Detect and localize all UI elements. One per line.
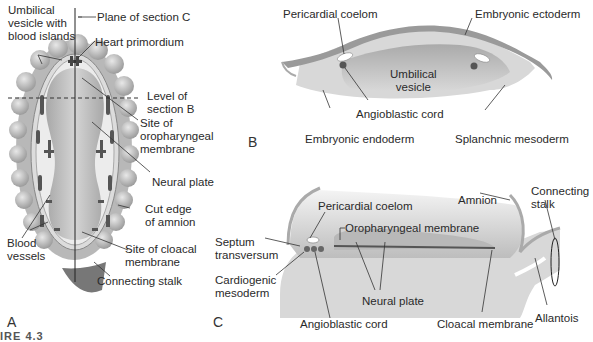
label-embryonic-endoderm: Embryonic endoderm bbox=[305, 133, 414, 146]
label-blood-vessels: Blood vessels bbox=[7, 237, 45, 263]
label-pericardial-coelom-b: Pericardial coelom bbox=[283, 8, 378, 21]
panel-letter-b: B bbox=[248, 134, 257, 150]
label-cut-edge-amnion: Cut edge of amnion bbox=[145, 203, 196, 229]
label-amnion: Amnion bbox=[458, 194, 497, 207]
label-embryonic-ectoderm: Embryonic ectoderm bbox=[475, 8, 580, 21]
label-neural-plate-a: Neural plate bbox=[152, 176, 214, 189]
label-umbilical-vesicle: Umbilical vesicle with blood islands bbox=[8, 4, 75, 43]
label-neural-plate-c: Neural plate bbox=[362, 295, 424, 308]
label-septum-transversum: Septum transversum bbox=[215, 236, 278, 262]
label-oropharyngeal-membrane: Oropharyngeal membrane bbox=[345, 222, 479, 235]
label-connecting-stalk-a: Connecting stalk bbox=[97, 275, 182, 288]
figure-caption-fragment: IRE 4.3 bbox=[0, 330, 44, 342]
panel-b-section bbox=[282, 18, 552, 110]
label-splanchnic-mesoderm: Splanchnic mesoderm bbox=[455, 133, 569, 146]
label-cloacal-site: Site of cloacal membrane bbox=[125, 243, 197, 269]
label-umbilical-vesicle-b: Umbilical vesicle bbox=[390, 68, 437, 94]
label-plane-of-section-c: Plane of section C bbox=[97, 11, 190, 24]
label-cardiogenic-mesoderm: Cardiogenic mesoderm bbox=[215, 274, 276, 300]
label-level-of-section-b: Level of section B bbox=[147, 90, 194, 116]
label-cloacal-membrane: Cloacal membrane bbox=[437, 318, 534, 331]
panel-letter-a: A bbox=[7, 314, 16, 330]
label-allantois: Allantois bbox=[535, 312, 578, 325]
label-pericardial-coelom-c: Pericardial coelom bbox=[318, 200, 413, 213]
label-connecting-stalk-c: Connecting stalk bbox=[531, 185, 589, 211]
label-angioblastic-cord-b: Angioblastic cord bbox=[356, 108, 444, 121]
panel-letter-c: C bbox=[213, 314, 223, 330]
label-angioblastic-cord-c: Angioblastic cord bbox=[300, 318, 388, 331]
label-heart-primordium: Heart primordium bbox=[95, 36, 184, 49]
label-oropharyngeal-site: Site of oropharyngeal membrane bbox=[140, 117, 214, 156]
